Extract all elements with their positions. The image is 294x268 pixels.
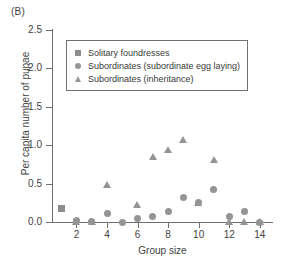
panel-label: (B) xyxy=(11,6,25,17)
chart-legend: Solitary foundressesSubordinates (subord… xyxy=(66,40,248,91)
data-point-triangle xyxy=(194,199,202,206)
data-point-square xyxy=(58,205,65,212)
legend-item: Subordinates (inheritance) xyxy=(73,72,240,85)
x-axis-title: Group size xyxy=(52,245,273,256)
data-point-circle xyxy=(149,213,156,220)
x-tick-label: 8 xyxy=(158,229,178,240)
x-tick xyxy=(107,223,108,228)
x-tick-label: 10 xyxy=(189,229,209,240)
square-marker-icon xyxy=(73,50,83,56)
x-tick-label: 14 xyxy=(250,229,270,240)
data-point-triangle xyxy=(240,218,248,225)
data-point-triangle xyxy=(133,201,141,208)
x-tick-label: 2 xyxy=(66,229,86,240)
y-tick xyxy=(46,222,52,223)
legend-item-label: Subordinates (subordinate egg laying) xyxy=(88,60,240,72)
x-tick xyxy=(168,223,169,228)
legend-item-label: Subordinates (inheritance) xyxy=(88,73,194,85)
legend-item: Subordinates (subordinate egg laying) xyxy=(73,59,240,72)
data-point-circle xyxy=(104,210,111,217)
triangle-marker-icon xyxy=(73,76,83,82)
data-point-circle xyxy=(210,186,217,193)
y-tick-label: 0.0 xyxy=(14,216,42,227)
data-point-triangle xyxy=(256,218,264,225)
data-point-circle xyxy=(180,194,187,201)
data-point-triangle xyxy=(149,153,157,160)
x-tick-label: 6 xyxy=(128,229,148,240)
data-point-triangle xyxy=(210,156,218,163)
data-point-triangle xyxy=(164,146,172,153)
data-point-triangle xyxy=(179,136,187,143)
x-tick xyxy=(199,223,200,228)
data-point-circle xyxy=(119,219,126,226)
legend-item-label: Solitary foundresses xyxy=(88,47,170,59)
data-point-triangle xyxy=(88,218,96,225)
data-point-circle xyxy=(165,208,172,215)
x-tick-label: 4 xyxy=(97,229,117,240)
data-point-circle xyxy=(134,215,141,222)
figure-panel-b: (B) 0.00.51.01.52.02.5 2468101214 Per ca… xyxy=(0,0,294,268)
data-point-triangle xyxy=(103,181,111,188)
data-point-circle xyxy=(241,208,248,215)
data-point-triangle xyxy=(225,218,233,225)
legend-item: Solitary foundresses xyxy=(73,46,240,59)
y-axis-title: Per capita number of pupae xyxy=(20,29,31,199)
data-point-triangle xyxy=(72,218,80,225)
x-tick xyxy=(138,223,139,228)
x-tick-label: 12 xyxy=(219,229,239,240)
circle-marker-icon xyxy=(73,63,83,69)
